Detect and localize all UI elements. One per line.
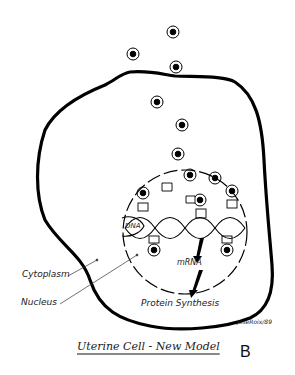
dna-helix [122,217,245,239]
cytoplasm-label: Cytoplasm [22,269,70,279]
panel-letter: B [240,343,251,361]
artist-signature: JoseRoix/89 [237,318,272,325]
figure-title: Uterine Cell - New Model [77,340,220,353]
cytoplasm-particles [151,96,188,160]
mrna-arrows [189,238,204,298]
nuclear-envelope [123,170,247,294]
mrna-label: mRNA [177,258,202,267]
extracellular-particles [127,26,182,73]
dna-label: DNA [125,222,140,230]
nucleus-label: Nucleus [21,297,57,307]
protein-synthesis-label: Protein Synthesis [141,298,219,308]
binding-sites [138,183,237,243]
